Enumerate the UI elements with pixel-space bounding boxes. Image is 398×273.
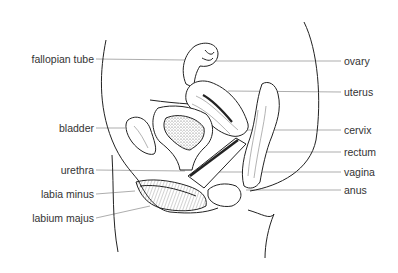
label-labia-minus: labia minus bbox=[41, 188, 94, 200]
label-rectum: rectum bbox=[344, 146, 376, 158]
label-urethra: urethra bbox=[61, 164, 94, 176]
label-uterus: uterus bbox=[344, 86, 373, 98]
label-ovary: ovary bbox=[344, 55, 370, 67]
anus bbox=[208, 184, 241, 207]
label-anus: anus bbox=[344, 184, 367, 196]
label-fallopian-tube: fallopian tube bbox=[32, 53, 94, 65]
pubic-bone bbox=[126, 117, 156, 154]
label-cervix: cervix bbox=[344, 124, 371, 136]
labia bbox=[136, 180, 206, 211]
anatomy-diagram: fallopian tube bladder urethra labia min… bbox=[0, 0, 398, 273]
label-vagina: vagina bbox=[344, 166, 375, 178]
bladder bbox=[153, 106, 213, 170]
label-labium-majus: labium majus bbox=[32, 212, 94, 224]
label-bladder: bladder bbox=[59, 122, 94, 134]
anatomy-illustration bbox=[0, 0, 398, 273]
